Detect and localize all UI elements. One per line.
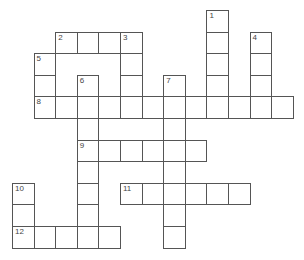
crossword-cell[interactable]: 4 — [250, 32, 273, 55]
clue-number: 3 — [123, 34, 127, 42]
crossword-cell[interactable] — [98, 32, 121, 55]
crossword-cell[interactable] — [228, 183, 251, 206]
clue-number: 11 — [123, 185, 131, 193]
crossword-cell[interactable] — [12, 204, 35, 227]
crossword-cell[interactable] — [163, 183, 186, 206]
crossword-cell[interactable]: 8 — [34, 96, 57, 119]
crossword-grid: 123458697101211 — [0, 0, 304, 260]
crossword-cell[interactable] — [77, 161, 100, 184]
crossword-cell[interactable] — [34, 226, 57, 249]
crossword-cell[interactable]: 11 — [120, 183, 143, 206]
crossword-cell[interactable] — [77, 32, 100, 55]
crossword-cell[interactable] — [77, 96, 100, 119]
crossword-cell[interactable] — [250, 53, 273, 76]
crossword-cell[interactable] — [142, 96, 165, 119]
crossword-cell[interactable] — [206, 183, 229, 206]
crossword-cell[interactable] — [163, 118, 186, 141]
crossword-cell[interactable] — [185, 140, 208, 163]
crossword-cell[interactable] — [228, 96, 251, 119]
crossword-cell[interactable]: 7 — [163, 75, 186, 98]
crossword-cell[interactable] — [163, 204, 186, 227]
crossword-cell[interactable] — [185, 96, 208, 119]
clue-number: 8 — [37, 98, 41, 106]
crossword-cell[interactable] — [185, 183, 208, 206]
clue-number: 7 — [166, 77, 170, 85]
crossword-cell[interactable] — [206, 53, 229, 76]
crossword-cell[interactable] — [163, 140, 186, 163]
crossword-cell[interactable] — [120, 96, 143, 119]
crossword-cell[interactable] — [163, 96, 186, 119]
clue-number: 9 — [80, 142, 84, 150]
crossword-cell[interactable]: 9 — [77, 140, 100, 163]
crossword-cell[interactable] — [250, 96, 273, 119]
crossword-cell[interactable] — [98, 140, 121, 163]
crossword-cell[interactable] — [271, 96, 294, 119]
crossword-cell[interactable] — [77, 183, 100, 206]
crossword-cell[interactable]: 2 — [55, 32, 78, 55]
crossword-cell[interactable] — [206, 75, 229, 98]
crossword-cell[interactable]: 6 — [77, 75, 100, 98]
crossword-cell[interactable] — [98, 96, 121, 119]
crossword-cell[interactable] — [98, 226, 121, 249]
crossword-cell[interactable] — [120, 140, 143, 163]
clue-number: 12 — [15, 228, 24, 236]
crossword-cell[interactable] — [120, 75, 143, 98]
clue-number: 5 — [37, 55, 41, 63]
crossword-cell[interactable] — [34, 75, 57, 98]
clue-number: 4 — [253, 34, 257, 42]
crossword-cell[interactable] — [163, 226, 186, 249]
crossword-cell[interactable] — [142, 183, 165, 206]
crossword-cell[interactable]: 10 — [12, 183, 35, 206]
crossword-cell[interactable] — [163, 161, 186, 184]
crossword-cell[interactable] — [142, 140, 165, 163]
crossword-cell[interactable] — [77, 204, 100, 227]
crossword-cell[interactable] — [206, 32, 229, 55]
crossword-cell[interactable] — [77, 118, 100, 141]
crossword-cell[interactable] — [77, 226, 100, 249]
crossword-cell[interactable]: 1 — [206, 10, 229, 33]
crossword-cell[interactable] — [250, 75, 273, 98]
clue-number: 6 — [80, 77, 84, 85]
crossword-cell[interactable]: 5 — [34, 53, 57, 76]
clue-number: 10 — [15, 185, 24, 193]
crossword-cell[interactable] — [120, 53, 143, 76]
crossword-cell[interactable]: 3 — [120, 32, 143, 55]
clue-number: 2 — [58, 34, 62, 42]
crossword-cell[interactable] — [55, 226, 78, 249]
crossword-cell[interactable] — [206, 96, 229, 119]
clue-number: 1 — [209, 12, 213, 20]
crossword-cell[interactable] — [55, 96, 78, 119]
crossword-cell[interactable]: 12 — [12, 226, 35, 249]
